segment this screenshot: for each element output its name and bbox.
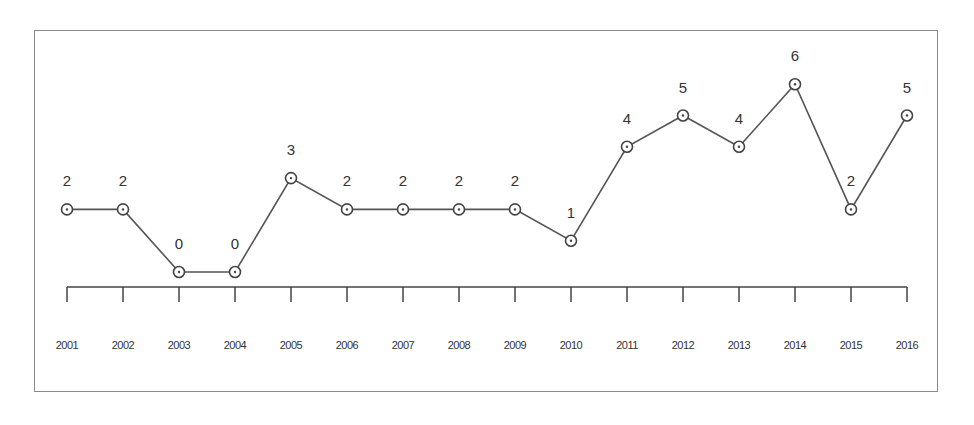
data-point-center (122, 208, 124, 210)
x-tick-label: 2005 (280, 339, 303, 351)
data-label: 2 (511, 172, 519, 189)
data-point-center (290, 177, 292, 179)
data-point-center (850, 208, 852, 210)
data-point-center (346, 208, 348, 210)
data-label: 2 (455, 172, 463, 189)
x-tick-label: 2008 (448, 339, 471, 351)
data-label: 2 (399, 172, 407, 189)
x-tick-label: 2002 (112, 339, 135, 351)
data-label: 2 (847, 172, 855, 189)
x-axis (67, 287, 907, 302)
data-point-center (234, 271, 236, 273)
data-point-center (906, 114, 908, 116)
x-tick-label: 2003 (168, 339, 191, 351)
data-point-center (738, 146, 740, 148)
data-label: 5 (679, 79, 687, 96)
data-label: 0 (231, 235, 239, 252)
line-chart: 2200322221454625 20012002200320042005200… (0, 0, 974, 425)
data-point-center (626, 146, 628, 148)
x-tick-label: 2009 (504, 339, 527, 351)
x-tick-label: 2004 (224, 339, 247, 351)
data-label: 2 (343, 172, 351, 189)
data-point-center (66, 208, 68, 210)
data-line (67, 84, 907, 272)
x-tick-label: 2013 (728, 339, 751, 351)
x-tick-label: 2014 (784, 339, 807, 351)
x-tick-labels: 2001200220032004200520062007200820092010… (56, 339, 919, 351)
data-point-center (570, 240, 572, 242)
data-point-center (682, 114, 684, 116)
data-point-center (514, 208, 516, 210)
x-tick-label: 2006 (336, 339, 359, 351)
data-point-center (458, 208, 460, 210)
data-label: 3 (287, 141, 295, 158)
data-label: 2 (63, 172, 71, 189)
x-tick-label: 2016 (896, 339, 919, 351)
x-tick-label: 2001 (56, 339, 79, 351)
data-labels: 2200322221454625 (63, 47, 911, 252)
x-tick-label: 2007 (392, 339, 415, 351)
data-label: 1 (567, 204, 575, 221)
data-label: 5 (903, 79, 911, 96)
data-point-center (402, 208, 404, 210)
data-label: 6 (791, 47, 799, 64)
data-label: 2 (119, 172, 127, 189)
x-tick-label: 2011 (616, 339, 638, 351)
series-path (67, 84, 907, 272)
x-tick-label: 2010 (560, 339, 583, 351)
x-tick-label: 2015 (840, 339, 863, 351)
data-label: 4 (735, 110, 743, 127)
x-tick-label: 2012 (672, 339, 695, 351)
data-point-center (794, 83, 796, 85)
data-label: 4 (623, 110, 631, 127)
data-point-center (178, 271, 180, 273)
data-points (62, 79, 913, 278)
data-label: 0 (175, 235, 183, 252)
